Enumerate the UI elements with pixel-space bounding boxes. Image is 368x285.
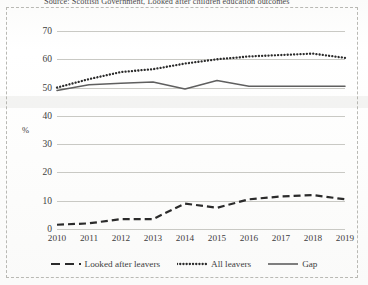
x-tick-label-2012: 2012 — [112, 233, 130, 243]
y-tick-label-0: 0 — [0, 224, 52, 234]
y-tick-label-50: 50 — [0, 83, 52, 93]
legend-swatch-dotted-icon — [177, 260, 207, 268]
x-tick-label-2013: 2013 — [144, 233, 162, 243]
y-tick-label-10: 10 — [0, 196, 52, 206]
y-tick-label-60: 60 — [0, 54, 52, 64]
y-tick-label-40: 40 — [0, 111, 52, 121]
legend-label: Looked after leavers — [85, 259, 161, 269]
y-axis-labels: 010203040506070% — [0, 31, 368, 229]
y-tick-label-30: 30 — [0, 139, 52, 149]
chart-legend: Looked after leaversAll leaversGap — [0, 259, 368, 269]
chart-page: Source: Scottish Government, Looked afte… — [0, 0, 368, 285]
legend-item-gap[interactable]: Gap — [268, 259, 317, 269]
x-tick-label-2014: 2014 — [176, 233, 194, 243]
legend-label: All leavers — [211, 259, 251, 269]
x-axis-labels: 2010201120122013201420152016201720182019 — [57, 233, 345, 249]
legend-item-looked-after-leavers[interactable]: Looked after leavers — [51, 259, 161, 269]
x-tick-label-2015: 2015 — [208, 233, 226, 243]
gridline-0 — [57, 229, 345, 230]
x-tick-label-2017: 2017 — [272, 233, 290, 243]
x-tick-label-2018: 2018 — [304, 233, 322, 243]
x-tick-label-2011: 2011 — [80, 233, 98, 243]
source-caption: Source: Scottish Government, Looked afte… — [44, 0, 290, 6]
legend-swatch-solid-icon — [268, 260, 298, 268]
x-tick-label-2019: 2019 — [336, 233, 354, 243]
x-tick-label-2010: 2010 — [48, 233, 66, 243]
y-tick-label-20: 20 — [0, 167, 52, 177]
legend-label: Gap — [302, 259, 317, 269]
legend-item-all-leavers[interactable]: All leavers — [177, 259, 251, 269]
legend-swatch-dashed-icon — [51, 260, 81, 268]
y-axis-unit-label: % — [22, 125, 29, 135]
y-tick-label-70: 70 — [0, 26, 52, 36]
x-tick-label-2016: 2016 — [240, 233, 258, 243]
